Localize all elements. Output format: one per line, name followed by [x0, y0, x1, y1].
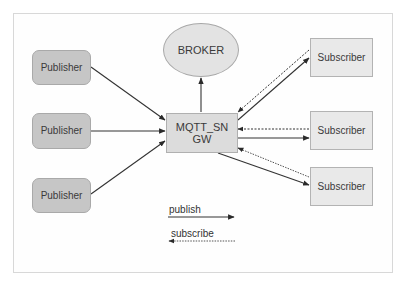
gateway-node: MQTT_SN GW	[166, 113, 238, 153]
subscriber-node-3: Subscriber	[310, 167, 373, 206]
subscriber-node-1: Subscriber	[310, 38, 373, 77]
publish-arrow-gw-sub1	[238, 58, 309, 120]
legend-subscribe-label: subscribe	[171, 228, 214, 239]
broker-node: BROKER	[163, 23, 239, 77]
legend-publish-label: publish	[169, 204, 201, 215]
subscriber-label: Subscriber	[318, 181, 366, 193]
publish-arrow-pub3-gw	[91, 141, 165, 194]
publisher-label: Publisher	[41, 62, 83, 74]
publisher-label: Publisher	[41, 190, 83, 202]
gateway-label-line1: MQTT_SN	[176, 121, 229, 133]
subscriber-label: Subscriber	[318, 125, 366, 137]
subscriber-node-2: Subscriber	[310, 111, 373, 150]
publish-arrow-pub1-gw	[91, 67, 165, 120]
subscribe-arrow-sub1-gw	[238, 50, 309, 112]
gateway-label-line2: GW	[193, 133, 212, 145]
broker-label: BROKER	[178, 44, 224, 56]
publish-arrow-gw-sub3	[218, 153, 309, 185]
publisher-label: Publisher	[41, 125, 83, 137]
publisher-node-3: Publisher	[32, 178, 91, 213]
subscriber-label: Subscriber	[318, 52, 366, 64]
publisher-node-1: Publisher	[32, 50, 91, 85]
publisher-node-2: Publisher	[32, 113, 91, 149]
